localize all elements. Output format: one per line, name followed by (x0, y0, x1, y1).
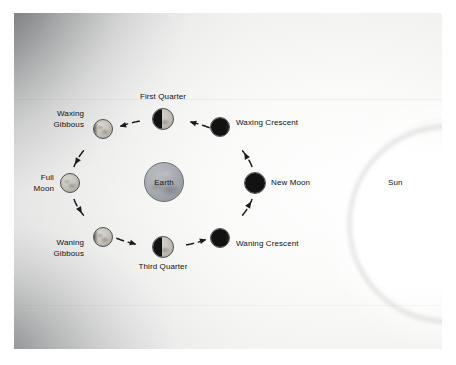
moon-phase-new (244, 172, 266, 194)
earth-label: Earth (154, 178, 174, 187)
moon-phase-crescent (210, 228, 230, 248)
phase-label-crescent-7: Waning Crescent (236, 239, 299, 250)
moon-phase-gibbous (93, 227, 113, 247)
moon-shadow (152, 236, 162, 258)
moon-lit-limb (223, 117, 230, 137)
phase-label-gibbous-3: Waxing Gibbous (54, 109, 85, 130)
photo-plate: Earth New MoonWaxing CrescentFirst Quart… (14, 13, 442, 349)
moon-phase-gibbous (93, 119, 113, 139)
phase-label-quarter-6: Third Quarter (103, 262, 223, 273)
phase-label-crescent-1: Waxing Crescent (236, 118, 298, 129)
moon-phase-quarter (152, 108, 174, 130)
moon-phases-figure: Earth New MoonWaxing CrescentFirst Quart… (0, 0, 456, 365)
sun-label: Sun (388, 178, 403, 189)
phase-label-quarter-2: First Quarter (103, 92, 223, 103)
diagram-layer: Earth New MoonWaxing CrescentFirst Quart… (14, 13, 442, 349)
phase-label-full-4: Full Moon (34, 173, 54, 194)
phase-label-new-0: New Moon (271, 178, 310, 189)
earth-node: Earth (144, 162, 184, 202)
moon-shadow (244, 172, 266, 194)
moon-phase-crescent (210, 117, 230, 137)
moon-shadow (152, 108, 162, 130)
phase-label-gibbous-5: Waning Gibbous (54, 238, 85, 259)
moon-lit-limb (223, 228, 230, 248)
moon-phase-quarter (152, 236, 174, 258)
moon-surface-texture (61, 174, 79, 192)
moon-phase-full (60, 173, 80, 193)
